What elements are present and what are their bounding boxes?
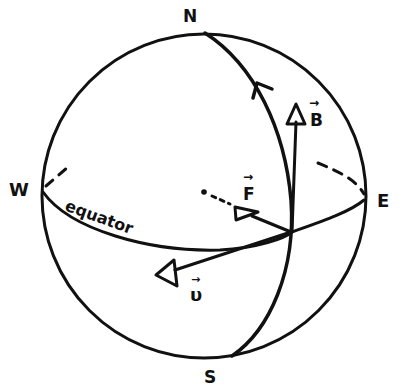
label-south: S [204, 367, 216, 387]
label-north: N [183, 6, 197, 26]
label-vector-b-arrow: → [309, 96, 319, 110]
equator-back-west [46, 167, 68, 186]
vector-v-arrowhead-icon [156, 260, 177, 286]
vector-f-shaft [252, 216, 291, 232]
sphere-outline [42, 34, 366, 358]
vector-f-hidden-dashes [212, 196, 230, 204]
vector-b-shaft [292, 122, 296, 232]
label-vector-f: F [243, 184, 255, 204]
equator-back-east [318, 163, 364, 194]
label-west: W [9, 179, 29, 200]
vector-f-tail-dot [201, 189, 207, 195]
label-vector-f-arrow: → [243, 170, 253, 184]
label-vector-b: B [310, 110, 323, 130]
globe-diagram: N S W E equator B → F → υ → [0, 0, 405, 387]
label-vector-v: υ [190, 284, 202, 305]
label-east: E [377, 190, 389, 211]
label-vector-v-arrow: → [191, 273, 200, 286]
